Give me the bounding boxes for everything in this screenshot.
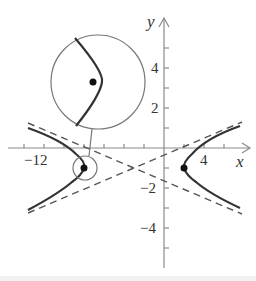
- y-tick-label-2: 2: [151, 100, 159, 116]
- hyperbola: [28, 126, 240, 210]
- magnifier-connector: [89, 129, 92, 156]
- y-tick-label-neg2: −2: [140, 180, 156, 196]
- footer-band: [0, 276, 256, 281]
- x-tick-label-neg12: −12: [24, 152, 47, 168]
- asymptotes: [28, 122, 242, 214]
- asymptote-rising: [28, 122, 242, 213]
- magnifier: [51, 35, 145, 180]
- hyperbola-figure: y x −12 4 4 2 −2 −4: [0, 0, 256, 281]
- y-tick-label-4: 4: [151, 60, 159, 76]
- left-vertex-point: [81, 165, 88, 172]
- magnified-point: [90, 79, 97, 86]
- right-vertex-point: [181, 165, 188, 172]
- hyperbola-right-branch: [184, 126, 240, 208]
- y-axis-label: y: [145, 12, 155, 31]
- y-tick-label-neg4: −4: [140, 220, 156, 236]
- hyperbola-left-branch: [28, 128, 84, 210]
- x-axis-label: x: [235, 152, 244, 171]
- magnifier-circle: [51, 35, 145, 129]
- asymptote-falling: [28, 123, 242, 214]
- x-tick-label-4: 4: [200, 152, 208, 168]
